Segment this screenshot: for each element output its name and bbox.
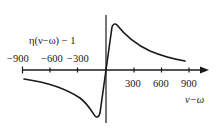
x-axis-label: ν−ω (185, 94, 204, 105)
tick-label-neg900: −900 (7, 53, 29, 64)
dispersion-chart: η(ν−ω) − 1 −900 −600 −300 300 600 900 ν−… (0, 0, 223, 137)
x-axis-arrow-icon (200, 67, 209, 74)
tick-label-neg600: −600 (41, 53, 63, 64)
tick-label-600: 600 (153, 78, 169, 89)
tick-label-300: 300 (125, 78, 141, 89)
y-axis-label: η(ν−ω) − 1 (29, 35, 76, 47)
tick-label-900: 900 (181, 78, 197, 89)
tick-label-neg300: −300 (67, 53, 89, 64)
